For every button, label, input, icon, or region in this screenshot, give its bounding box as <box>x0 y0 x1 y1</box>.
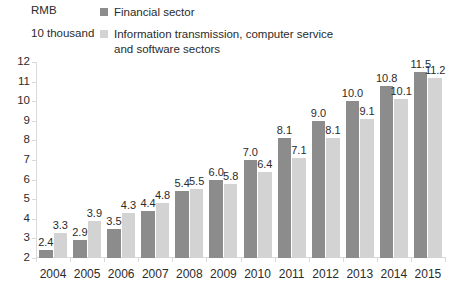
y-tick-label: 12 <box>6 56 30 68</box>
bar-financial <box>312 121 326 258</box>
bar-group: 5.45.5 <box>172 62 206 258</box>
unit-label-scale: 10 thousand <box>31 27 94 39</box>
bar-group: 7.06.4 <box>241 62 275 258</box>
bar-value-label: 8.1 <box>271 125 297 136</box>
chart-legend: RMB 10 thousand Financial sector Informa… <box>0 0 451 56</box>
x-axis-label: 2012 <box>312 267 339 281</box>
y-tick-label: 4 <box>6 213 30 225</box>
x-tick-mark <box>104 257 105 262</box>
x-axis-label: 2004 <box>40 267 67 281</box>
x-axis-label: 2011 <box>279 267 305 281</box>
y-tick-label: 10 <box>6 95 30 107</box>
bar-infotech <box>54 233 68 258</box>
y-tick-label: 2 <box>6 252 30 264</box>
bar-infotech <box>224 184 238 258</box>
bar-infotech <box>394 99 408 258</box>
bar-value-label: 9.0 <box>305 108 331 119</box>
bar-financial <box>141 211 155 258</box>
bar-group: 9.08.1 <box>309 62 343 258</box>
bar-group: 10.09.1 <box>343 62 377 258</box>
bar-financial <box>73 240 87 258</box>
bar-financial <box>209 180 223 258</box>
bar-group: 8.17.1 <box>275 62 309 258</box>
bar-financial <box>414 72 428 258</box>
x-tick-mark <box>138 257 139 262</box>
bar-financial <box>244 160 258 258</box>
bar-infotech <box>258 172 272 258</box>
bar-value-label: 10.8 <box>374 73 400 84</box>
bar-financial <box>175 191 189 258</box>
x-axis-labels: 2004200520062007200820092010201120122013… <box>36 263 445 287</box>
x-axis-label: 2013 <box>346 267 373 281</box>
y-tick-label: 8 <box>6 135 30 147</box>
x-tick-mark <box>343 257 344 262</box>
x-axis-label: 2014 <box>381 267 408 281</box>
x-tick-mark <box>275 257 276 262</box>
y-tick-label: 9 <box>6 115 30 127</box>
x-tick-mark <box>309 257 310 262</box>
x-axis-label: 2006 <box>108 267 135 281</box>
bar-value-label: 7.0 <box>237 147 263 158</box>
bar-infotech <box>122 213 136 258</box>
x-tick-mark <box>206 257 207 262</box>
x-tick-mark <box>70 257 71 262</box>
y-tick-label: 6 <box>6 174 30 186</box>
bar-infotech <box>428 78 442 258</box>
bar-financial <box>278 138 292 258</box>
bar-infotech <box>292 158 306 258</box>
x-axis-label: 2009 <box>210 267 237 281</box>
bar-financial <box>39 250 53 258</box>
plot-area: 2.43.32.93.93.54.34.44.85.45.56.05.87.06… <box>36 62 445 258</box>
bar-group: 6.05.8 <box>206 62 240 258</box>
x-tick-mark <box>241 257 242 262</box>
bar-value-label: 11.2 <box>422 65 448 76</box>
bar-infotech <box>156 203 170 258</box>
legend-label-infotech: Information transmission, computer servi… <box>114 27 344 56</box>
bar-group: 4.44.8 <box>138 62 172 258</box>
y-tick-label: 11 <box>6 76 30 88</box>
x-axis-label: 2008 <box>176 267 203 281</box>
legend-swatch-infotech-icon <box>100 30 108 38</box>
bar-infotech <box>360 119 374 258</box>
bar-financial <box>346 101 360 258</box>
legend-item-financial: Financial sector <box>100 5 195 20</box>
y-tick-label: 5 <box>6 193 30 205</box>
x-axis-label: 2005 <box>74 267 101 281</box>
bar-group: 2.43.3 <box>36 62 70 258</box>
bar-group: 3.54.3 <box>104 62 138 258</box>
bar-group: 11.511.2 <box>411 62 445 258</box>
bar-financial <box>380 86 394 258</box>
x-tick-mark <box>377 257 378 262</box>
x-axis-label: 2010 <box>244 267 271 281</box>
x-tick-mark <box>36 257 37 262</box>
y-tick-label: 3 <box>6 233 30 245</box>
bar-group: 2.93.9 <box>70 62 104 258</box>
unit-label-currency: RMB <box>31 4 57 16</box>
bar-infotech <box>88 221 102 258</box>
legend-swatch-financial-icon <box>100 8 108 16</box>
x-axis-label: 2007 <box>142 267 169 281</box>
bar-value-label: 10.0 <box>340 88 366 99</box>
bar-chart: RMB 10 thousand Financial sector Informa… <box>0 0 451 292</box>
y-tick-label: 7 <box>6 154 30 166</box>
legend-item-infotech: Information transmission, computer servi… <box>100 27 344 56</box>
x-axis-label: 2015 <box>415 267 442 281</box>
x-tick-mark <box>172 257 173 262</box>
legend-label-financial: Financial sector <box>114 5 195 20</box>
bar-financial <box>107 229 121 258</box>
bar-infotech <box>326 138 340 258</box>
bar-infotech <box>190 189 204 258</box>
bar-group: 10.810.1 <box>377 62 411 258</box>
x-tick-mark <box>445 257 446 262</box>
x-tick-mark <box>411 257 412 262</box>
